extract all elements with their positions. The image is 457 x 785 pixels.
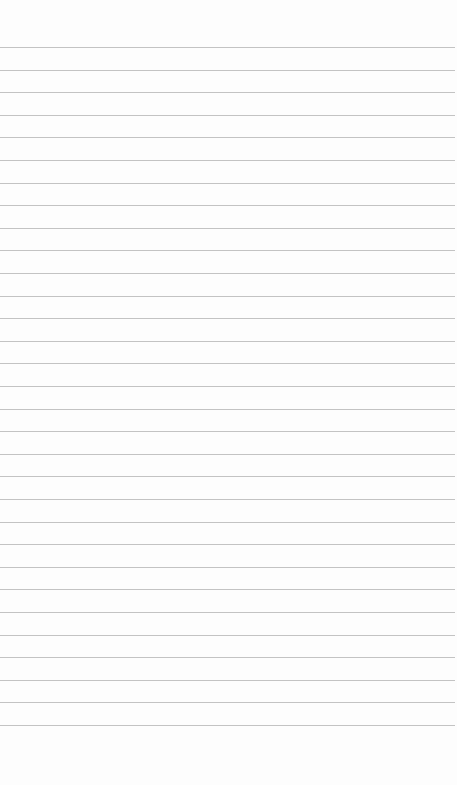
ruled-line — [0, 522, 455, 523]
ruled-line — [0, 318, 455, 319]
ruled-line — [0, 476, 455, 477]
ruled-line — [0, 273, 455, 274]
ruled-line — [0, 92, 455, 93]
ruled-line — [0, 47, 455, 48]
ruled-line — [0, 431, 455, 432]
ruled-line — [0, 205, 455, 206]
ruled-line — [0, 137, 455, 138]
ruled-line — [0, 635, 455, 636]
ruled-line — [0, 589, 455, 590]
ruled-line — [0, 499, 455, 500]
ruled-line — [0, 409, 455, 410]
ruled-line — [0, 115, 455, 116]
ruled-line — [0, 702, 455, 703]
ruled-line — [0, 341, 455, 342]
ruled-line — [0, 70, 455, 71]
ruled-line — [0, 183, 455, 184]
ruled-line — [0, 567, 455, 568]
ruled-line — [0, 160, 455, 161]
ruled-line — [0, 454, 455, 455]
ruled-line — [0, 228, 455, 229]
ruled-line — [0, 725, 455, 726]
ruled-notepad-page — [0, 0, 457, 785]
ruled-line — [0, 544, 455, 545]
ruled-line — [0, 250, 455, 251]
ruled-line — [0, 296, 455, 297]
ruled-line — [0, 612, 455, 613]
ruled-line — [0, 657, 455, 658]
ruled-line — [0, 680, 455, 681]
ruled-line — [0, 386, 455, 387]
ruled-line — [0, 363, 455, 364]
